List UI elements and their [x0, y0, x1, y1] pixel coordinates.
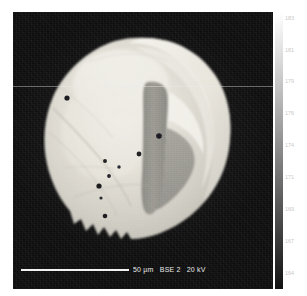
specimen-particle	[43, 36, 233, 242]
scale-bar-line	[21, 269, 129, 271]
scale-bar-annotation: 50 µm BSE 2 20 kV	[133, 266, 210, 274]
specimen-vector	[43, 36, 233, 242]
colorbar-tick-5: 171	[285, 174, 294, 180]
colorbar-tick-3: 176	[285, 110, 294, 116]
scale-bar-length-label: 50 µm	[133, 266, 154, 273]
figure-root: 50 µm BSE 2 20 kV 1831811791761741711691…	[0, 0, 307, 296]
colorbar-tick-2: 179	[285, 78, 294, 84]
colorbar-tick-7: 167	[285, 238, 294, 244]
colorbar-tick-0: 183	[285, 15, 294, 21]
voltage-label: 20 kV	[187, 266, 206, 273]
scale-bar: 50 µm BSE 2 20 kV	[21, 264, 265, 276]
colorbar-tick-labels: 183181179176174171169167164	[285, 12, 307, 289]
colorbar-gradient-strip	[275, 12, 283, 289]
grayscale-intensity-colorbar: 183181179176174171169167164	[275, 12, 307, 289]
colorbar-tick-1: 181	[285, 47, 294, 53]
colorbar-tick-8: 164	[285, 270, 294, 276]
colorbar-tick-4: 174	[285, 142, 294, 148]
detector-label: BSE 2	[160, 266, 181, 273]
colorbar-tick-6: 169	[285, 206, 294, 212]
bse-micrograph-panel: 50 µm BSE 2 20 kV	[13, 12, 273, 289]
